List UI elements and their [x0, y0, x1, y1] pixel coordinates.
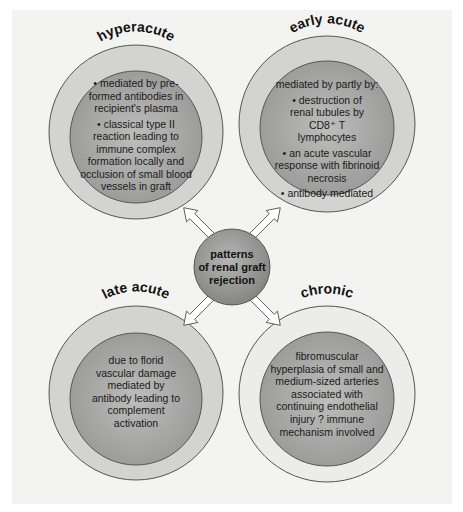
late-acute-title: late acute — [99, 278, 173, 302]
early-acute-item-3: • antibody mediated — [270, 187, 384, 200]
hyperacute-item-2: • classical type II reaction leading to … — [80, 118, 192, 193]
svg-text:chronic: chronic — [298, 280, 356, 301]
center-line-3: rejection — [194, 274, 270, 287]
early-acute-body: mediated by partly by: • destruction of … — [270, 78, 384, 203]
svg-text:hyperacute: hyperacute — [94, 18, 178, 44]
early-acute-item-1: • destruction of renal tubules by CD8⁺ T… — [270, 94, 384, 144]
chronic-body: fibromuscular hyperplasia of small and m… — [270, 350, 384, 441]
late-acute-text: due to florid vascular damage mediated b… — [90, 354, 182, 430]
late-acute-body: due to florid vascular damage mediated b… — [90, 354, 182, 433]
hyperacute-item-1: • mediated by pre-formed antibodies in r… — [80, 77, 192, 115]
early-acute-intro: mediated by partly by: — [270, 78, 384, 91]
svg-text:late acute: late acute — [99, 278, 173, 302]
svg-text:early acute: early acute — [286, 10, 368, 36]
hyperacute-body: • mediated by pre-formed antibodies in r… — [80, 77, 192, 196]
center-line-1: patterns — [194, 248, 270, 261]
chronic-text: fibromuscular hyperplasia of small and m… — [270, 350, 384, 438]
center-label: patterns of renal graft rejection — [194, 248, 270, 287]
center-line-2: of renal graft — [194, 261, 270, 274]
early-acute-item-2: • an acute vascular response with fibrin… — [270, 147, 384, 185]
early-acute-title: early acute — [286, 10, 368, 36]
hyperacute-title: hyperacute — [94, 18, 178, 44]
chronic-title: chronic — [298, 280, 356, 301]
